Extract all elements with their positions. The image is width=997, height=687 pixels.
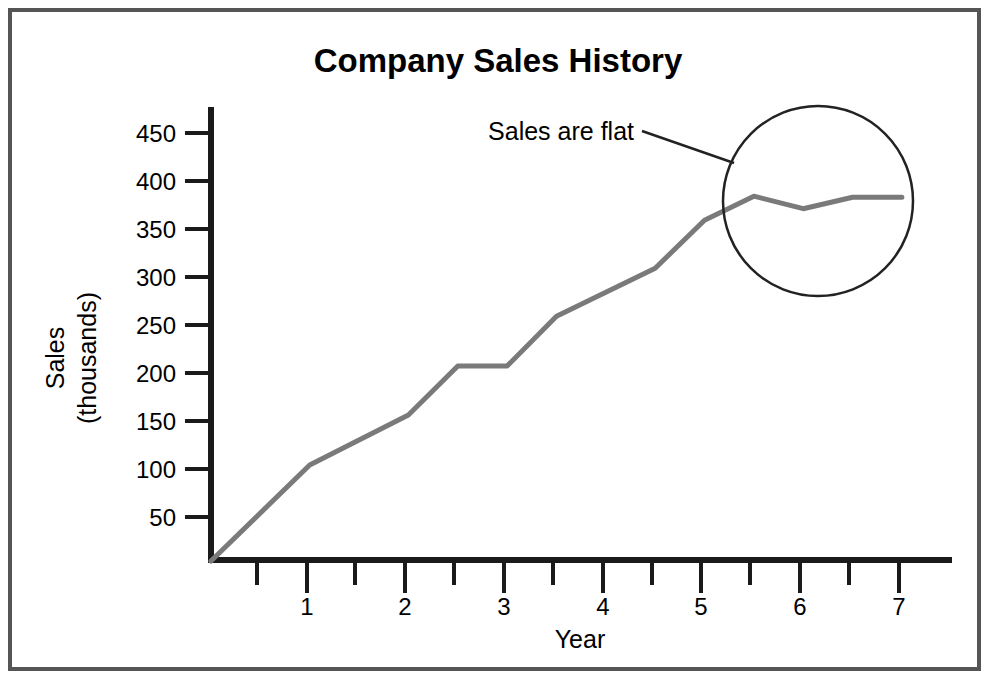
x-tick-label: 5 [694, 593, 707, 620]
y-tick-label: 200 [136, 360, 176, 387]
y-axis-tick-labels: 450 400 350 300 250 200 150 100 50 [136, 120, 176, 531]
x-axis-minor-ticks [257, 563, 849, 585]
y-tick-label: 150 [136, 408, 176, 435]
sales-line-series [211, 196, 902, 561]
y-tick-label: 100 [136, 456, 176, 483]
annotation-leader-line [642, 131, 734, 163]
x-tick-label: 3 [497, 593, 510, 620]
y-tick-label: 300 [136, 264, 176, 291]
x-tick-label: 4 [596, 593, 609, 620]
highlight-circle [723, 106, 913, 296]
x-axis-tick-labels: 1 2 3 4 5 6 7 [300, 593, 905, 620]
x-tick-label: 1 [300, 593, 313, 620]
y-tick-label: 400 [136, 168, 176, 195]
page-title: Company Sales History [314, 42, 683, 79]
y-tick-label: 450 [136, 120, 176, 147]
x-axis-title: Year [555, 625, 606, 653]
y-tick-label: 350 [136, 216, 176, 243]
x-tick-label: 2 [398, 593, 411, 620]
y-axis-title-line1: Sales [41, 327, 69, 390]
annotation-label: Sales are flat [488, 117, 634, 145]
y-tick-label: 250 [136, 312, 176, 339]
x-tick-label: 6 [793, 593, 806, 620]
x-axis-major-ticks [307, 563, 899, 593]
y-axis-title-line2: (thousands) [73, 292, 101, 424]
screenshot-root: Company Sales History 450 400 350 300 25… [0, 0, 997, 687]
x-tick-label: 7 [892, 593, 905, 620]
y-tick-label: 50 [149, 504, 176, 531]
sales-line-chart: Company Sales History 450 400 350 300 25… [0, 0, 997, 687]
y-axis-ticks [185, 133, 208, 517]
